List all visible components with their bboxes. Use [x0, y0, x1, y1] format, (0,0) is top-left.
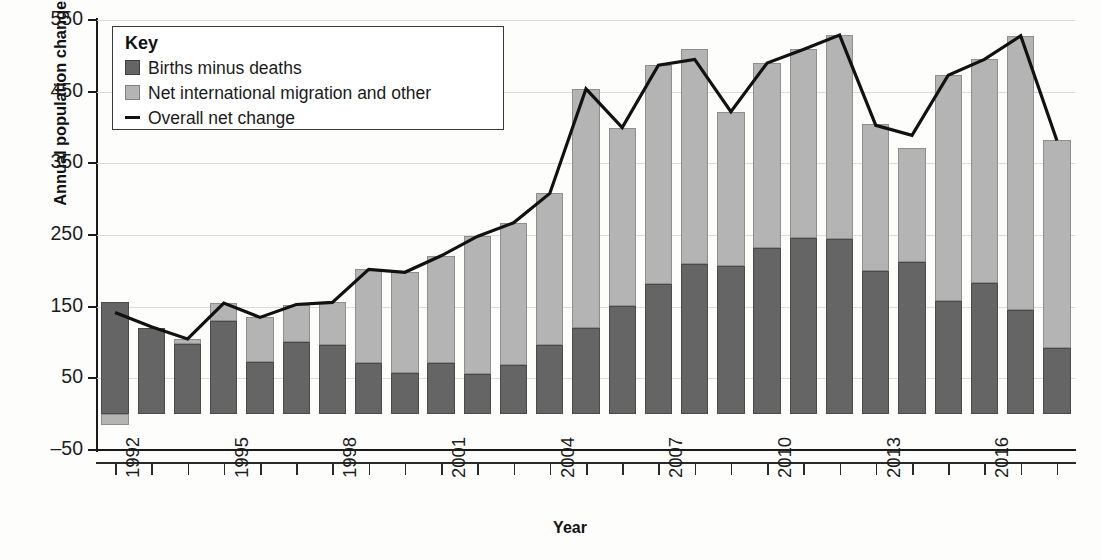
- legend-item-overall-net-change: Overall net change: [125, 105, 493, 130]
- x-axis-tick: [948, 463, 950, 475]
- y-axis-tick-label: 50: [21, 365, 83, 388]
- x-axis-tick: [984, 463, 986, 475]
- x-axis-tick: [658, 463, 660, 475]
- chart-legend: Key Births minus deaths Net internationa…: [112, 26, 504, 130]
- x-axis-tick-label: 1995: [231, 437, 253, 478]
- x-axis-tick: [695, 463, 697, 475]
- y-axis-tick: [88, 449, 97, 451]
- x-axis-tick: [1057, 463, 1059, 475]
- x-axis-tick-label: 2013: [883, 437, 905, 478]
- legend-item-label: Births minus deaths: [148, 58, 302, 78]
- x-axis-title: Year: [480, 519, 660, 537]
- x-axis-tick: [731, 463, 733, 475]
- x-axis-tick: [296, 463, 298, 475]
- y-axis-tick: [88, 91, 97, 93]
- x-axis-tick: [332, 463, 334, 475]
- chart-figure: Annual population change (thousands) Yea…: [0, 0, 1102, 560]
- x-axis-tick: [115, 463, 117, 475]
- y-axis-tick: [88, 306, 97, 308]
- light-square-icon: [125, 85, 140, 100]
- y-axis-tick-label: 550: [21, 7, 83, 30]
- x-axis-tick-label: 2007: [665, 437, 687, 478]
- x-axis-tick: [151, 463, 153, 475]
- x-axis-tick-label: 2004: [557, 437, 579, 478]
- x-axis-tick: [188, 463, 190, 475]
- x-axis-tick: [441, 463, 443, 475]
- y-axis-tick: [88, 19, 97, 21]
- y-axis-tick-label: 450: [21, 79, 83, 102]
- x-axis-tick: [224, 463, 226, 475]
- x-axis-tick: [260, 463, 262, 475]
- dark-square-icon: [125, 60, 140, 75]
- line-icon: [125, 116, 140, 119]
- x-axis-tick: [369, 463, 371, 475]
- y-axis-tick-label: 150: [21, 294, 83, 317]
- x-axis-tick-label: 2001: [448, 437, 470, 478]
- y-axis-tick: [88, 162, 97, 164]
- y-axis-tick-label: –50: [21, 437, 83, 460]
- x-axis-tick: [405, 463, 407, 475]
- x-axis-tick-label: 1992: [122, 437, 144, 478]
- x-axis-tick-label: 1998: [339, 437, 361, 478]
- y-axis-tick: [88, 234, 97, 236]
- y-axis-tick: [88, 377, 97, 379]
- legend-item-net-migration: Net international migration and other: [125, 80, 493, 105]
- y-axis-tick-label: 350: [21, 150, 83, 173]
- x-axis-tick: [803, 463, 805, 475]
- x-axis-tick: [1021, 463, 1023, 475]
- x-axis-tick-label: 2016: [991, 437, 1013, 478]
- x-axis-tick: [767, 463, 769, 475]
- x-axis-tick: [586, 463, 588, 475]
- x-axis-tick: [477, 463, 479, 475]
- x-axis-tick: [876, 463, 878, 475]
- legend-item-label: Overall net change: [148, 108, 295, 128]
- x-axis-tick: [912, 463, 914, 475]
- y-axis-tick-label: 250: [21, 222, 83, 245]
- x-axis-tick: [622, 463, 624, 475]
- figure-caption: [18, 549, 438, 560]
- x-axis-tick-label: 2010: [774, 437, 796, 478]
- legend-item-births-minus-deaths: Births minus deaths: [125, 55, 493, 80]
- x-axis-tick: [840, 463, 842, 475]
- x-axis-tick: [514, 463, 516, 475]
- x-axis-tick: [550, 463, 552, 475]
- legend-title: Key: [125, 32, 493, 54]
- legend-item-label: Net international migration and other: [148, 83, 431, 103]
